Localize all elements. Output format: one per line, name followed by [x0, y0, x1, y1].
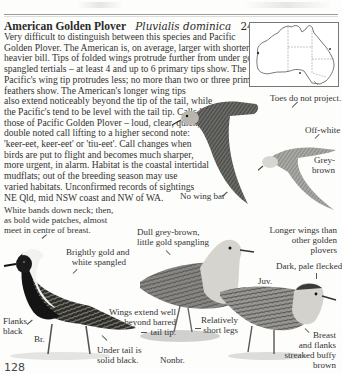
label-grey-brown: Grey- brown: [305, 155, 335, 175]
label-brightly-gold: Brightly gold and white spangled: [66, 247, 126, 267]
text-remnant: [240, 2, 335, 8]
section-divider-shadow: [4, 16, 338, 17]
page-number: 128: [4, 361, 25, 374]
label-br: Br.: [34, 334, 45, 344]
leader-line: [316, 273, 317, 279]
image-remnant: [75, 2, 125, 8]
label-breast-flanks: Breast and flanks streaked buffy brown: [282, 330, 336, 370]
label-off-white: Off-white: [305, 125, 340, 135]
label-relatively-short-legs: Relatively short legs: [200, 315, 238, 335]
label-under-tail: Under tail is solid black.: [97, 345, 142, 365]
label-dark-pale-flecked: Dark, pale flecked: [276, 261, 342, 271]
label-nonbr: Nonbr.: [160, 355, 185, 365]
leader-line: [141, 332, 147, 333]
previous-entry-remnant: [0, 0, 338, 14]
label-no-wing-bar: No wing bar: [180, 191, 225, 201]
description-line: Pacific's wing tip protrudes less; no mo…: [4, 75, 244, 86]
australia-map-icon: [250, 23, 338, 86]
label-juv: Juv.: [258, 276, 272, 286]
distribution-map: [249, 22, 339, 87]
label-toes: Toes do not project.: [270, 93, 341, 103]
label-longer-wings: Longer wings than other golden plovers: [262, 225, 337, 255]
label-dull-grey-brown: Dull grey-brown, little gold spangling: [137, 227, 209, 247]
section-divider: [4, 14, 338, 15]
label-flanks-black: Flanks black: [3, 316, 27, 336]
label-white-bands: White bands down neck; then, as bold wid…: [4, 205, 113, 235]
leader-line: [195, 328, 201, 329]
